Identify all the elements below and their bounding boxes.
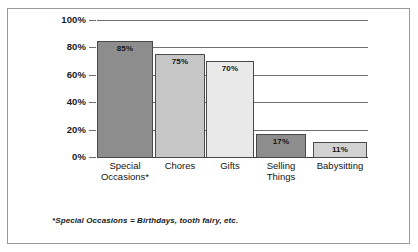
bar-babysitting[interactable]: 11% bbox=[313, 142, 367, 158]
bar-selling-things[interactable]: 17% bbox=[256, 134, 306, 158]
category-label-gifts: Gifts bbox=[204, 161, 256, 172]
ytick-label-0: 0% bbox=[72, 152, 86, 162]
tick-60 bbox=[89, 75, 96, 76]
bar-gifts[interactable]: 70% bbox=[206, 61, 254, 158]
tick-20 bbox=[89, 130, 96, 131]
ytick-label-100: 100% bbox=[61, 15, 86, 25]
bar-value-label: 17% bbox=[257, 138, 305, 147]
category-label-chores: Chores bbox=[153, 161, 207, 172]
tick-0 bbox=[89, 157, 96, 158]
tick-40 bbox=[89, 102, 96, 103]
bar-value-label: 70% bbox=[207, 65, 253, 74]
bar-chores[interactable]: 75% bbox=[155, 54, 205, 158]
bar-value-label: 11% bbox=[314, 146, 366, 155]
tick-100 bbox=[89, 20, 96, 21]
category-label-selling-things: Selling Things bbox=[254, 161, 308, 182]
bar-value-label: 85% bbox=[98, 45, 152, 54]
ytick-label-20: 20% bbox=[67, 125, 86, 135]
ytick-label-80: 80% bbox=[67, 42, 86, 52]
category-label-babysitting: Babysitting bbox=[306, 161, 374, 172]
chart-footnote: *Special Occasions = Birthdays, tooth fa… bbox=[52, 216, 238, 225]
gridline-100 bbox=[97, 20, 368, 21]
plot-area: 100% 80% 60% 40% 20% 0% 85% 75% 70% 17% … bbox=[0, 0, 418, 252]
category-label-special-occasions: Special Occasions* bbox=[95, 161, 155, 182]
ytick-label-60: 60% bbox=[67, 70, 86, 80]
chart-figure: 100% 80% 60% 40% 20% 0% 85% 75% 70% 17% … bbox=[0, 0, 418, 252]
ytick-label-40: 40% bbox=[67, 97, 86, 107]
bar-special-occasions[interactable]: 85% bbox=[97, 41, 153, 158]
bar-value-label: 75% bbox=[156, 58, 204, 67]
tick-80 bbox=[89, 47, 96, 48]
